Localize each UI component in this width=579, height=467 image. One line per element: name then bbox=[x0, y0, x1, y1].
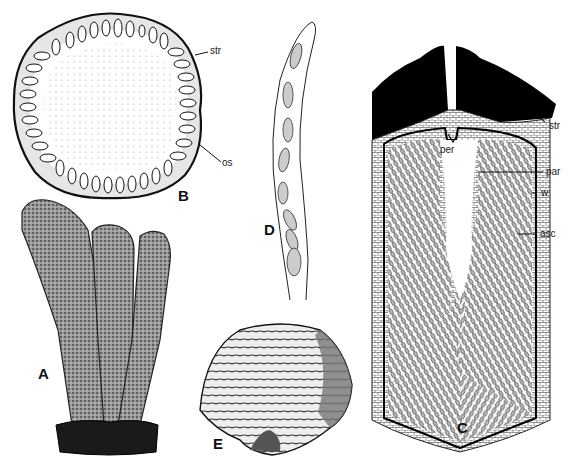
panel-label-d: D bbox=[264, 222, 275, 237]
panel-c-perithecium bbox=[372, 46, 556, 452]
panel-label-c: C bbox=[457, 420, 468, 435]
annotation-c-w: w bbox=[541, 188, 548, 198]
annotation-b-str: str bbox=[210, 46, 221, 56]
panel-label-b: B bbox=[178, 188, 189, 203]
panel-a-fruiting-bodies bbox=[22, 200, 170, 455]
annotation-b-os: os bbox=[222, 158, 233, 168]
panel-b-stroma-section bbox=[14, 14, 221, 199]
annotation-c-par: par bbox=[546, 167, 560, 177]
annotation-c-per: per bbox=[440, 145, 454, 155]
panel-label-a: A bbox=[38, 366, 49, 381]
annotation-c-str: str bbox=[549, 121, 560, 131]
panel-d-ascus bbox=[273, 22, 316, 300]
figure-canvas bbox=[0, 0, 579, 467]
panel-label-e: E bbox=[213, 436, 223, 451]
annotation-c-asc: asc bbox=[540, 229, 556, 239]
